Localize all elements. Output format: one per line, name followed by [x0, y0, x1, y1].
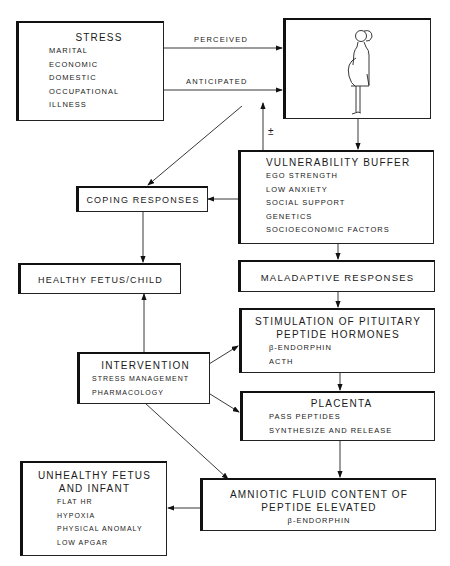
stress-item: MARITAL	[49, 44, 163, 58]
vulnerability-item: LOW ANXIETY	[266, 183, 433, 197]
stress-item: ECONOMIC	[49, 58, 163, 72]
stress-item: OCCUPATIONAL	[49, 85, 163, 99]
healthy-fetus-box: HEALTHY FETUS/CHILD	[18, 263, 181, 294]
vulnerability-title: VULNERABILITY BUFFER	[266, 156, 433, 169]
stimulation-item: β-ENDORPHIN	[242, 341, 434, 355]
mother-box	[283, 18, 431, 119]
stimulation-box: STIMULATION OF PITUITARY PEPTIDE HORMONE…	[239, 308, 435, 373]
unhealthy-title: AND INFANT	[23, 482, 166, 495]
plus-minus-label: ±	[268, 126, 275, 137]
stimulation-item: ACTH	[242, 355, 434, 369]
unhealthy-item: PHYSICAL ANOMALY	[23, 522, 166, 536]
perceived-label: PERCEIVED	[194, 35, 248, 44]
anticipated-label: ANTICIPATED	[186, 77, 248, 86]
placenta-box: PLACENTA PASS PEPTIDES SYNTHESIZE AND RE…	[240, 391, 435, 441]
healthy-title: HEALTHY FETUS/CHILD	[21, 274, 180, 287]
amniotic-title: PEPTIDE ELEVATED	[203, 501, 435, 514]
unhealthy-title: UNHEALTHY FETUS	[23, 469, 166, 482]
vulnerability-item: EGO STRENGTH	[266, 169, 433, 183]
stress-item: ILLNESS	[49, 98, 163, 112]
coping-responses-box: COPING RESPONSES	[76, 186, 208, 212]
unhealthy-item: HYPOXIA	[23, 509, 166, 523]
placenta-item: SYNTHESIZE AND RELEASE	[269, 424, 434, 438]
vulnerability-item: SOCIAL SUPPORT	[266, 196, 433, 210]
amniotic-fluid-box: AMNIOTIC FLUID CONTENT OF PEPTIDE ELEVAT…	[200, 478, 436, 531]
stress-box: STRESS MARITAL ECONOMIC DOMESTIC OCCUPAT…	[16, 21, 164, 121]
amniotic-item: β-ENDORPHIN	[203, 514, 435, 528]
maladaptive-title: MALADAPTIVE RESPONSES	[241, 271, 434, 284]
vulnerability-item: SOCIOECONOMIC FACTORS	[266, 223, 433, 237]
intervention-item: PHARMACOLOGY	[92, 386, 209, 400]
vulnerability-item: GENETICS	[266, 210, 433, 224]
maladaptive-responses-box: MALADAPTIVE RESPONSES	[238, 260, 435, 292]
stimulation-title: STIMULATION OF PITUITARY	[242, 315, 434, 328]
pregnant-woman-icon	[286, 20, 434, 120]
intervention-title: INTERVENTION	[82, 359, 209, 372]
stress-title: STRESS	[35, 31, 163, 44]
unhealthy-item: FLAT HR	[23, 495, 166, 509]
unhealthy-fetus-box: UNHEALTHY FETUS AND INFANT FLAT HR HYPOX…	[20, 461, 167, 556]
stimulation-title: PEPTIDE HORMONES	[242, 328, 434, 341]
stress-item: DOMESTIC	[49, 71, 163, 85]
amniotic-title: AMNIOTIC FLUID CONTENT OF	[203, 488, 435, 501]
placenta-title: PLACENTA	[249, 397, 434, 410]
placenta-item: PASS PEPTIDES	[269, 410, 434, 424]
intervention-item: STRESS MANAGEMENT	[92, 372, 209, 386]
coping-title: COPING RESPONSES	[79, 194, 207, 207]
unhealthy-item: LOW APGAR	[23, 536, 166, 550]
vulnerability-buffer-box: VULNERABILITY BUFFER EGO STRENGTH LOW AN…	[238, 150, 434, 244]
intervention-box: INTERVENTION STRESS MANAGEMENT PHARMACOL…	[77, 352, 210, 404]
